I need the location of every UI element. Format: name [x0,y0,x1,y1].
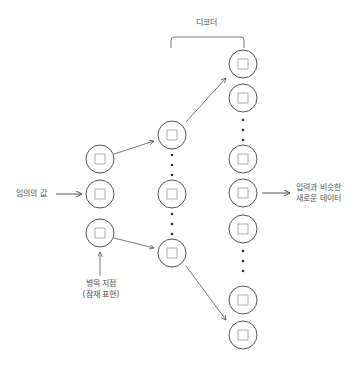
node [229,145,257,173]
output-label: 입력과 비슷한 새로운 데이터 [296,182,341,204]
node [158,180,186,208]
node [86,145,114,173]
node [229,50,257,78]
node [229,84,257,112]
node [158,121,186,149]
node [86,180,114,208]
output-layer [229,50,257,349]
connection-arrow [186,266,226,320]
decoder-bracket [171,37,244,48]
output-label-line2: 새로운 데이터 [296,193,341,204]
decoder-title: 디코더 [196,17,217,28]
connection-arrow [114,238,154,248]
node [86,219,114,247]
hidden-layer [158,121,186,267]
bottleneck-label: 병목 지점 (잠재 표현) [80,278,122,300]
node [229,321,257,349]
connection-arrow [186,78,226,122]
input-label: 임의의 값 [16,188,47,199]
output-label-line1: 입력과 비슷한 [296,182,341,193]
node [158,239,186,267]
bottleneck-label-line1: 병목 지점 [80,278,122,289]
connection-arrow [114,141,154,154]
node [229,179,257,207]
node [229,215,257,243]
latent-layer [86,145,114,247]
bottleneck-label-line2: (잠재 표현) [80,289,122,300]
node [229,286,257,314]
